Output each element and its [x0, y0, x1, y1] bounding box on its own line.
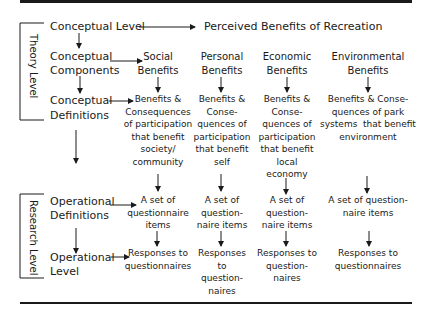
personal-benefits-measure: A set of question- naire items: [187, 194, 257, 232]
economic-benefits-definition: Benefits & Conse- quences of participati…: [252, 93, 322, 181]
research-level-label: Research Level: [27, 200, 39, 275]
environmental-benefits-responses: Responses to questionnaires: [318, 247, 418, 272]
perceived-benefits-title: Perceived Benefits of Recreation: [204, 20, 382, 33]
environmental-benefits-heading: Environmental Benefits: [318, 50, 418, 77]
personal-benefits-heading: Personal Benefits: [187, 50, 257, 77]
economic-benefits-responses: Responses to question- naires: [252, 247, 322, 285]
operational-level-label: Operational Level: [50, 251, 115, 279]
operational-definitions-label: Operational Definitions: [50, 195, 115, 223]
social-benefits-definition: Benefits & Consequences of participation…: [118, 93, 198, 168]
personal-benefits-responses: Responses to question- naires: [187, 247, 257, 297]
conceptual-definitions-label: Conceptual Definitions: [50, 93, 112, 123]
economic-benefits-measure: A set of question- naire items: [252, 194, 322, 232]
conceptual-level-label: Conceptual Level: [50, 20, 145, 33]
social-benefits-responses: Responses to questionnaires: [118, 247, 198, 272]
economic-benefits-heading: Economic Benefits: [252, 50, 322, 77]
theory-level-label: Theory Level: [27, 34, 39, 98]
environmental-benefits-measure: A set of question- naire items: [318, 194, 418, 219]
environmental-benefits-definition: Benefits & Conse- quences of park system…: [318, 93, 418, 143]
social-benefits-measure: A set of questionnaire items: [118, 194, 198, 232]
conceptual-components-label: Conceptual Components: [50, 50, 120, 78]
personal-benefits-definition: Benefits & Conse- quences of participati…: [187, 93, 257, 168]
social-benefits-heading: Social Benefits: [118, 50, 198, 77]
